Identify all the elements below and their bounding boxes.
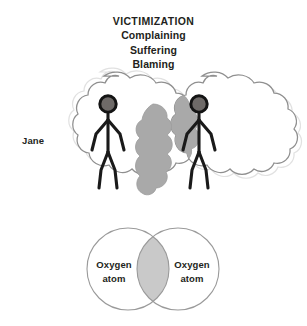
venn-label-right-line1: Oxygen: [166, 258, 218, 272]
figure-canvas: VICTIMIZATION Complaining Suffering Blam…: [0, 0, 307, 326]
venn-label-right-line2: atom: [166, 272, 218, 286]
diagram-svg: [0, 0, 307, 326]
venn-label-left-line2: atom: [88, 272, 140, 286]
venn-label-left-line1: Oxygen: [88, 258, 140, 272]
venn-label-left: Oxygen atom: [88, 258, 140, 287]
venn-label-right: Oxygen atom: [166, 258, 218, 287]
